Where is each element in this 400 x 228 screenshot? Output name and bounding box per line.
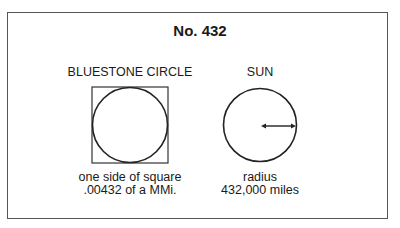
arrowhead-left-icon [261,124,266,129]
sun-circle-shape [224,89,297,162]
bluestone-caption-line2: .00432 of a MMi. [60,183,200,197]
arrowhead-right-icon [291,124,296,129]
sun-caption-line1: radius [210,170,310,184]
inscribed-circle-shape [93,88,168,163]
bluestone-caption-line1: one side of square [60,170,200,184]
sun-figure [224,89,297,162]
sun-caption-line2: 432,000 miles [210,183,310,197]
bluestone-figure [92,87,168,163]
